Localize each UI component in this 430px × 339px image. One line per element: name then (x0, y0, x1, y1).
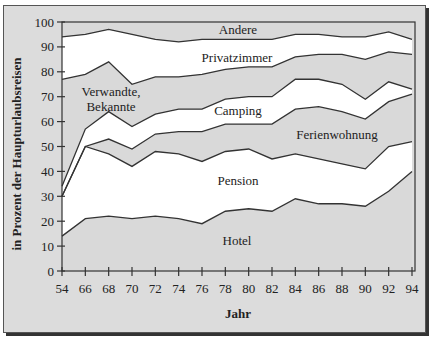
x-tick-label: 82 (266, 281, 279, 296)
x-tick-label: 90 (359, 281, 372, 296)
label-bekannte: Bekannte (86, 99, 135, 114)
x-tick-label: 80 (242, 281, 255, 296)
y-tick-label: 40 (41, 164, 54, 179)
x-tick-label: 70 (126, 281, 139, 296)
y-tick-label: 70 (41, 89, 54, 104)
x-tick-label: 84 (289, 281, 303, 296)
y-tick-label: 10 (41, 239, 54, 254)
x-tick-label: 68 (102, 281, 115, 296)
x-tick-label: 74 (172, 281, 186, 296)
label-andere: Andere (219, 22, 257, 37)
x-tick-label: 66 (79, 281, 93, 296)
x-tick-label: 94 (406, 281, 420, 296)
y-tick-label: 100 (35, 15, 55, 30)
y-tick-label: 30 (41, 189, 54, 204)
label-privatzimmer: Privatzimmer (202, 50, 273, 65)
y-tick-label: 20 (41, 214, 54, 229)
label-camping: Camping (214, 103, 262, 118)
x-axis-title: Jahr (225, 306, 251, 321)
y-tick-label: 60 (41, 114, 54, 129)
label-ferienwohnung: Ferienwohnung (296, 127, 378, 142)
x-tick-label: 86 (312, 281, 326, 296)
y-tick-label: 50 (41, 139, 54, 154)
label-verwandte: Verwandte, (82, 84, 141, 99)
y-tick-label: 90 (41, 39, 54, 54)
x-tick-label: 92 (382, 281, 395, 296)
x-tick-label: 54 (56, 281, 70, 296)
y-axis-title: in Prozent der Haupturlaubsreisen (9, 57, 24, 251)
y-axis: 0102030405060708090100 (35, 15, 66, 279)
x-tick-label: 72 (149, 281, 162, 296)
stacked-area-chart: 0102030405060708090100 54666870727476788… (0, 0, 430, 339)
label-pension: Pension (217, 173, 259, 188)
x-tick-label: 76 (196, 281, 210, 296)
label-hotel: Hotel (223, 233, 252, 248)
x-tick-label: 78 (219, 281, 232, 296)
y-tick-label: 80 (41, 64, 54, 79)
y-tick-label: 0 (48, 264, 55, 279)
x-tick-label: 88 (336, 281, 349, 296)
